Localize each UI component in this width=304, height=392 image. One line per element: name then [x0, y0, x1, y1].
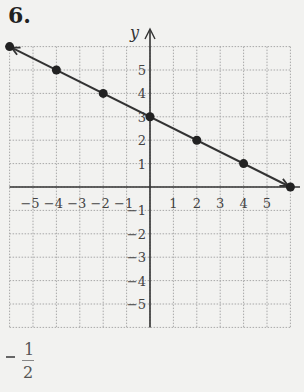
answer-slope: 1 2 [4, 340, 44, 390]
minus-sign [6, 356, 15, 358]
y-tick-label: 4 [138, 86, 146, 101]
data-point [146, 112, 155, 121]
y-tick-label: 5 [138, 63, 146, 78]
x-tick-label: −5 [20, 196, 39, 211]
coordinate-graph: y−5−4−3−2−11234554321−1−2−3−4−5 [0, 0, 304, 392]
x-tick-label: 5 [263, 196, 271, 211]
data-point [239, 159, 248, 168]
data-point [286, 183, 295, 192]
x-tick-label: 1 [169, 196, 177, 211]
data-point [99, 89, 108, 98]
y-tick-label: −1 [127, 203, 146, 218]
x-tick-label: 2 [193, 196, 201, 211]
data-point [52, 66, 61, 75]
y-tick-label: −5 [127, 297, 146, 312]
answer-denominator: 2 [23, 363, 33, 382]
answer-numerator: 1 [24, 340, 34, 359]
data-point [192, 136, 201, 145]
x-tick-label: 3 [216, 196, 224, 211]
y-tick-label: −3 [127, 250, 146, 265]
y-tick-label: −2 [127, 227, 146, 242]
y-tick-label: −4 [127, 274, 146, 289]
y-tick-label: 2 [138, 133, 146, 148]
fraction-bar [22, 360, 34, 361]
y-axis-label: y [129, 23, 140, 42]
data-point [5, 42, 14, 51]
y-tick-label: 1 [138, 157, 146, 172]
x-tick-label: −3 [67, 196, 86, 211]
x-tick-label: −4 [44, 196, 63, 211]
x-tick-label: 4 [239, 196, 247, 211]
x-tick-label: −2 [91, 196, 110, 211]
